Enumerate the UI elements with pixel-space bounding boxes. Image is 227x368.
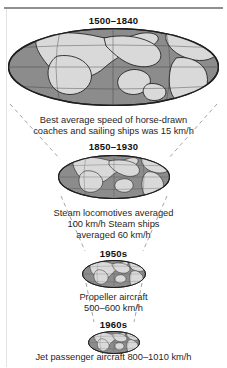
- caption-4: Jet passenger aircraft 800–1010 km/h: [0, 352, 227, 363]
- era-label-4: 1960s: [0, 319, 227, 330]
- caption-3: Propeller aircraft 500–600 km/h: [0, 292, 227, 314]
- caption-1-line-2: coaches and sailing ships was 15 km/h: [0, 126, 227, 137]
- caption-3-line-2: 500–600 km/h: [0, 303, 227, 314]
- caption-2: Steam locomotives averaged 100 km/h Stea…: [0, 208, 227, 241]
- caption-2-line-3: averaged 60 km/h: [0, 230, 227, 241]
- globe-1500-1840: [8, 28, 219, 106]
- caption-3-line-1: Propeller aircraft: [0, 292, 227, 303]
- time-space-convergence-figure: 1500–1840 Best average speed: [0, 0, 227, 368]
- globe-1850-1930: [58, 155, 170, 199]
- caption-2-line-1: Steam locomotives averaged: [0, 208, 227, 219]
- era-label-1: 1500–1840: [0, 15, 227, 26]
- era-label-2: 1850–1930: [0, 141, 227, 152]
- globe-1950s: [82, 260, 146, 288]
- top-divider-rule: [4, 7, 223, 9]
- caption-4-line-1: Jet passenger aircraft 800–1010 km/h: [0, 352, 227, 363]
- era-label-3: 1950s: [0, 248, 227, 259]
- caption-1-line-1: Best average speed of horse-drawn: [0, 115, 227, 126]
- caption-2-line-2: 100 km/h Steam ships: [0, 219, 227, 230]
- caption-1: Best average speed of horse-drawn coache…: [0, 115, 227, 137]
- globe-1960s: [88, 331, 140, 354]
